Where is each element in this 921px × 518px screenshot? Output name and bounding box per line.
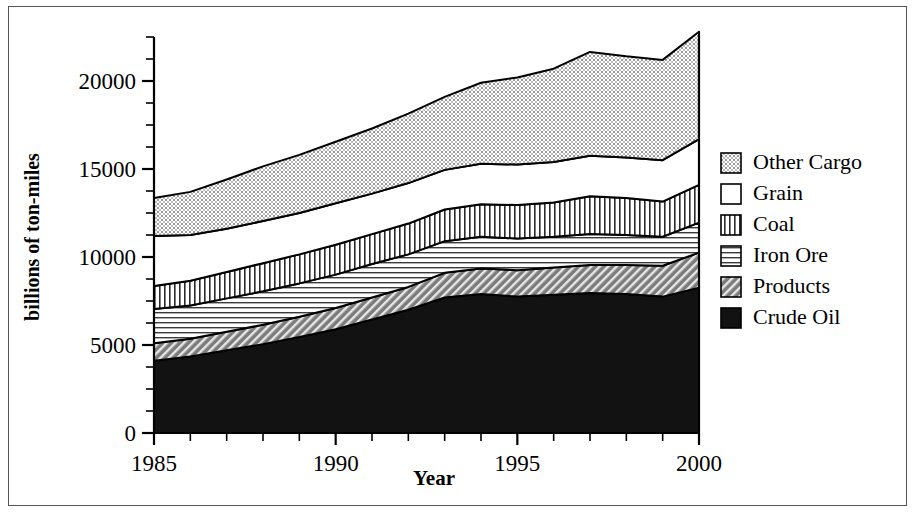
legend-swatch-stipple-dots (721, 153, 741, 173)
x-tick-label: 1990 (313, 451, 359, 476)
chart-svg: 050001000015000200001985199019952000 Oth… (9, 7, 908, 507)
legend-swatch-diagonal-hatch (721, 277, 741, 297)
legend-swatch-vertical-lines (721, 215, 741, 235)
legend-item-other-cargo[interactable]: Other Cargo (721, 149, 862, 174)
y-tick-label: 10000 (79, 245, 137, 270)
stacked-area-chart: 050001000015000200001985199019952000 Oth… (9, 7, 908, 507)
y-tick-label: 0 (125, 421, 137, 446)
legend-label: Coal (753, 211, 795, 236)
y-tick-label: 15000 (79, 157, 137, 182)
x-tick-label: 1985 (131, 451, 177, 476)
legend-label: Other Cargo (753, 149, 862, 174)
y-tick-label: 20000 (79, 69, 137, 94)
y-tick-label: 5000 (90, 333, 136, 358)
x-tick-label: 1995 (494, 451, 540, 476)
legend-item-crude-oil[interactable]: Crude Oil (721, 304, 840, 329)
legend-label: Grain (753, 180, 803, 205)
legend-swatch-horizontal-lines (721, 246, 741, 266)
legend-swatch-white (721, 184, 741, 204)
legend-item-grain[interactable]: Grain (721, 180, 803, 205)
legend-swatch-solid-black (721, 308, 741, 328)
chart-frame: 050001000015000200001985199019952000 Oth… (8, 6, 907, 506)
x-tick-label: 2000 (676, 451, 722, 476)
legend-label: Crude Oil (753, 304, 840, 329)
legend-item-products[interactable]: Products (721, 273, 830, 298)
chart-legend: Other CargoGrainCoalIron OreProductsCrud… (721, 149, 862, 329)
x-axis-title: Year (413, 466, 455, 490)
area-series-group (154, 32, 699, 433)
legend-item-coal[interactable]: Coal (721, 211, 795, 236)
legend-label: Products (753, 273, 830, 298)
legend-item-iron-ore[interactable]: Iron Ore (721, 242, 828, 267)
y-axis-title: billions of ton-miles (21, 153, 43, 321)
legend-label: Iron Ore (753, 242, 828, 267)
